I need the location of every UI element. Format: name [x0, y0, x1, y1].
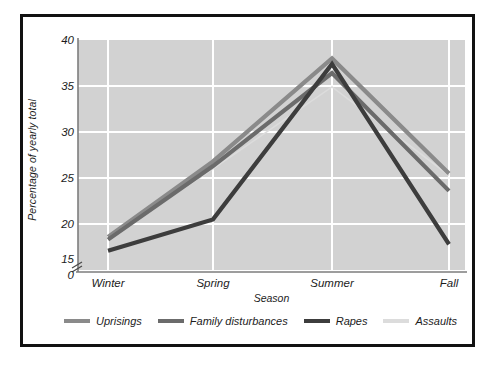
- plot-panel: [78, 40, 465, 270]
- y-tick-0: 0: [40, 269, 74, 281]
- legend-item-family-disturbances[interactable]: Family disturbances: [158, 315, 288, 327]
- y-axis-title: Percentage of yearly total: [26, 65, 38, 255]
- legend-item-assaults[interactable]: Assaults: [383, 315, 457, 327]
- plot-background: [78, 40, 465, 270]
- legend-label: Family disturbances: [190, 315, 288, 327]
- figure-root: 40 35 30 25 20 15 0 Percentage of yearly…: [0, 0, 498, 367]
- legend-item-rapes[interactable]: Rapes: [304, 315, 368, 327]
- line-chart-plot: [0, 0, 498, 367]
- y-tick-15: 15: [40, 253, 74, 265]
- x-tick-fall: Fall: [440, 277, 459, 289]
- chart-legend: UprisingsFamily disturbancesRapesAssault…: [64, 315, 473, 327]
- y-tick-30: 30: [40, 126, 74, 138]
- y-axis-ticks: 40 35 30 25 20 15 0: [38, 0, 74, 367]
- legend-swatch-icon: [158, 319, 184, 323]
- y-tick-25: 25: [40, 172, 74, 184]
- legend-label: Rapes: [336, 315, 368, 327]
- legend-swatch-icon: [383, 319, 409, 323]
- x-axis-title: Season: [78, 292, 465, 304]
- legend-label: Uprisings: [96, 315, 142, 327]
- x-tick-winter: Winter: [91, 277, 124, 289]
- y-tick-40: 40: [40, 34, 74, 46]
- x-tick-summer: Summer: [310, 277, 353, 289]
- legend-label: Assaults: [415, 315, 457, 327]
- legend-swatch-icon: [304, 319, 330, 323]
- y-tick-35: 35: [40, 80, 74, 92]
- legend-item-uprisings[interactable]: Uprisings: [64, 315, 142, 327]
- y-tick-20: 20: [40, 218, 74, 230]
- legend-swatch-icon: [64, 319, 90, 323]
- x-tick-spring: Spring: [196, 277, 229, 289]
- chart-area: 40 35 30 25 20 15 0 Percentage of yearly…: [0, 0, 498, 367]
